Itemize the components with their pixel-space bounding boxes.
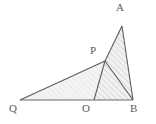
vertex-label-P: P xyxy=(90,45,96,56)
geometry-figure: A P Q O B xyxy=(0,0,156,124)
vertex-label-A: A xyxy=(116,2,124,13)
vertex-label-Q: Q xyxy=(9,103,17,114)
vertex-label-O: O xyxy=(82,103,90,114)
vertex-label-B: B xyxy=(130,103,137,114)
